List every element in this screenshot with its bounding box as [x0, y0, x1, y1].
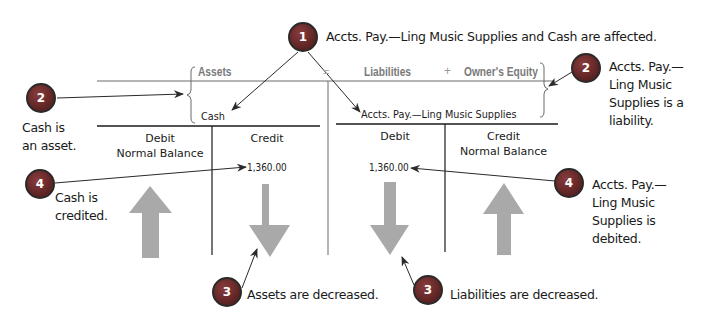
cash-debit-header: Debit Normal Balance	[115, 131, 205, 161]
cash-credit-amount: 1,360.00	[247, 161, 287, 173]
t-account-diagram: Assets = Liabilities + Owner's Equity Ca…	[0, 0, 702, 325]
callout-text-3-right: Liabilities are decreased.	[450, 286, 598, 304]
callout-badge-4-left: 4	[25, 169, 55, 199]
cash-credit-header: Credit	[222, 131, 312, 146]
cash-account-title: Cash	[201, 110, 225, 123]
increase-arrow-left	[129, 186, 172, 258]
equity-label: Owner's Equity	[464, 65, 538, 79]
callout-text-3-left: Assets are decreased.	[247, 286, 378, 304]
callout-text-2-right: Accts. Pay.— Ling Music Supplies is a li…	[609, 58, 684, 130]
callout-badge-2-left: 2	[26, 83, 56, 113]
callout-badge-3-right: 3	[413, 275, 443, 305]
liabilities-label: Liabilities	[364, 65, 411, 79]
assets-label: Assets	[198, 65, 231, 79]
ap-account-title: Accts. Pay.—Ling Music Supplies	[361, 108, 517, 121]
decrease-arrow-right	[370, 182, 409, 255]
decrease-arrow-left	[249, 184, 290, 257]
callout-badge-1: 1	[288, 22, 318, 52]
callout-badge-4-right: 4	[554, 168, 584, 198]
callout-text-2-left: Cash is an asset.	[22, 119, 76, 155]
ap-debit-header: Debit	[355, 129, 435, 144]
plus-sign: +	[444, 64, 451, 78]
diagram-lines	[0, 0, 702, 325]
ap-debit-amount: 1,360.00	[369, 161, 409, 173]
callout-text-1: Accts. Pay.—Ling Music Supplies and Cash…	[326, 28, 657, 46]
callout-text-4-left: Cash is credited.	[55, 189, 108, 225]
ap-credit-header: Credit Normal Balance	[456, 129, 551, 159]
increase-arrow-right	[483, 183, 524, 255]
callout-badge-2-right: 2	[571, 53, 601, 83]
equals-sign: =	[323, 66, 329, 78]
callout-badge-3-left: 3	[212, 277, 242, 307]
callout-text-4-right: Accts. Pay.— Ling Music Supplies is debi…	[592, 176, 667, 248]
